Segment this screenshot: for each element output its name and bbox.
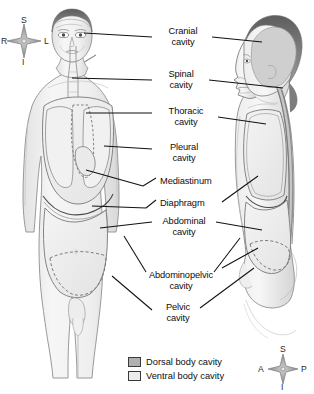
legend-label-dorsal: Dorsal body cavity [146,357,222,367]
compass-left-superior: S [21,15,27,25]
label-pleural-cavity: Pleural cavity [155,142,213,163]
label-cranial-line1: Cranial [152,26,214,37]
label-mediastinum: Mediastinum [160,176,212,187]
leader-abdominopelvic-right [214,238,240,272]
pupil-right [79,33,82,36]
compass-left-left: L [44,36,49,46]
label-abdominopelvic-line1: Abdominopelvic [145,270,217,281]
leader-abdominopelvic-left [124,236,146,272]
leader-mediastinum-left [143,178,156,186]
legend-item-dorsal: Dorsal body cavity [128,357,222,367]
label-abdominopelvic-line2: cavity [145,281,217,292]
legend-swatch-dorsal [128,357,141,367]
label-thoracic-line1: Thoracic [155,106,217,117]
label-spinal-line2: cavity [152,80,210,91]
leader-cranial-left [84,33,152,37]
lateral-pupil [246,60,248,62]
compass-left-hub [22,39,26,43]
label-thoracic-line2: cavity [155,117,217,128]
anatomy-illustration [0,0,314,394]
label-thoracic-cavity: Thoracic cavity [155,106,217,127]
lateral-hair-nape [289,83,297,112]
lateral-thigh-line2 [244,304,268,338]
label-spinal-cavity: Spinal cavity [152,69,210,90]
compass-right-posterior: P [301,364,307,374]
compass-right-graphic [268,354,298,384]
label-pleural-line2: cavity [155,153,213,164]
body-cavities-figure: Cranial cavity Spinal cavity Thoracic ca… [0,0,314,394]
legend-label-ventral: Ventral body cavity [146,371,224,381]
compass-right-superior: S [280,344,286,354]
lateral-body-figure [234,15,302,338]
compass-right-anterior: A [258,364,264,374]
label-abdominal-line1: Abdominal [152,216,216,227]
legend-swatch-ventral [128,371,141,381]
label-abdominopelvic-cavity: Abdominopelvic cavity [145,270,217,291]
label-abdominal-cavity: Abdominal cavity [152,216,216,237]
label-diaphragm: Diaphragm [160,198,205,209]
compass-right-hub [281,367,285,371]
label-cranial-line2: cavity [152,37,214,48]
leader-diaphragm-left [146,200,156,208]
label-pelvic-cavity: Pelvic cavity [155,302,201,323]
compass-right-inferior: I [281,382,283,392]
compass-left-inferior: I [22,57,24,67]
legend-item-ventral: Ventral body cavity [128,371,224,381]
label-spinal-line1: Spinal [152,69,210,80]
compass-left-right: R [1,36,7,46]
label-cranial-cavity: Cranial cavity [152,26,214,47]
label-mediastinum-line1: Mediastinum [160,176,212,187]
label-diaphragm-line1: Diaphragm [160,198,205,209]
label-abdominal-line2: cavity [152,227,216,238]
label-pelvic-line1: Pelvic [155,302,201,313]
pupil-left [62,33,65,36]
compass-left-graphic [7,24,41,58]
anterior-body-figure [23,9,119,378]
label-pleural-line1: Pleural [155,142,213,153]
label-pelvic-line2: cavity [155,313,201,324]
